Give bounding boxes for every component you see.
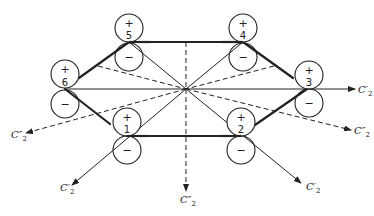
sign-minus: − [124, 51, 133, 64]
atom-number: 1 [124, 124, 130, 135]
sign-plus: + [124, 17, 133, 30]
label-c2p-right: C′2 [358, 84, 372, 98]
label-c2pp-right: C″2 [354, 125, 370, 139]
atom-number: 3 [306, 77, 312, 88]
sign-plus: + [238, 17, 247, 30]
sign-plus: + [122, 111, 131, 124]
label-c2p-lower-right: C′2 [306, 181, 320, 195]
sign-plus: + [60, 63, 69, 76]
bond-3-2 [255, 89, 307, 125]
sign-minus: − [304, 97, 313, 110]
bond-1-6 [65, 89, 110, 124]
atom-number: 5 [126, 30, 132, 41]
sign-minus: − [236, 144, 245, 157]
atom-number: 4 [240, 30, 246, 41]
label-c2p-lower-left: C′2 [60, 182, 74, 196]
sign-minus: − [238, 51, 247, 64]
sign-plus: + [236, 111, 245, 124]
label-c2pp-down: C″2 [180, 194, 196, 208]
atom-number: 6 [62, 77, 68, 88]
atom-number: 2 [238, 124, 244, 135]
sign-minus: − [122, 144, 131, 157]
axis-c2p-upper-left [129, 42, 186, 89]
sign-minus: − [60, 98, 69, 111]
label-c2pp-left: C″2 [11, 129, 27, 143]
sign-plus: + [304, 64, 313, 77]
diagram-canvas: + 1 − + 2 − + 3 − + 4 − + 5 − + 6 − C′2 … [0, 0, 374, 216]
axis-c2pp-left [26, 89, 186, 133]
axis-c2p-upper-right [186, 42, 243, 89]
